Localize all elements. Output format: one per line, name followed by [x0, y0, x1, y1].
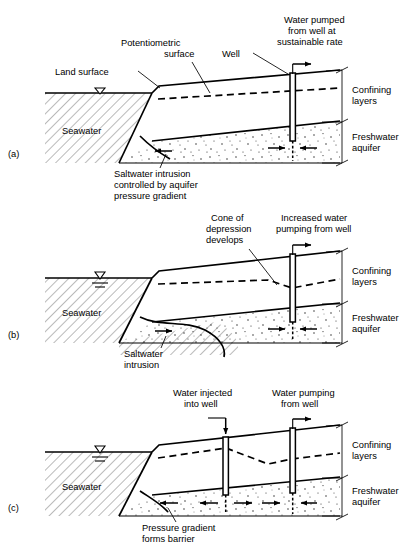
pressure-note-c-l1: Pressure gradient	[142, 523, 216, 533]
intrusion-note-b-l2: intrusion	[124, 360, 159, 370]
aquifer-label-c-l1: Freshwater	[352, 486, 399, 496]
confining-label-a-l2: layers	[352, 96, 377, 106]
potentiometric-label-a-l1: Potentiometric	[121, 38, 181, 48]
aquifer-label-b-l1: Freshwater	[352, 313, 399, 323]
panel-label-a: (a)	[8, 149, 19, 159]
potentiometric-line-b	[158, 279, 340, 288]
potentiometric-label-a-l2: surface	[164, 49, 195, 59]
confining-label-b-l1: Confining	[352, 266, 391, 276]
land-surface-line-c	[152, 425, 340, 452]
intrusion-note-b-l1: Saltwater	[124, 349, 163, 359]
diagram-canvas: (a) Seawater Confining layers Freshwater…	[0, 0, 402, 548]
pumped-label-a-l3: sustainable rate	[277, 37, 343, 47]
confining-label-c-l2: layers	[352, 451, 377, 461]
cone-label-b-l3: develops	[206, 235, 244, 245]
increased-label-b-l2: pumping from well	[276, 224, 351, 234]
intrusion-note-a-l3: pressure gradient	[114, 191, 187, 201]
confining-label-c-l1: Confining	[352, 440, 391, 450]
potentiometric-line-c	[158, 448, 340, 464]
seawater-label-c: Seawater	[62, 482, 101, 492]
intrusion-note-a-l2: controlled by aquifer	[114, 180, 198, 190]
panel-label-b: (b)	[8, 330, 19, 340]
pumping-label-c-l2: from well	[281, 399, 318, 409]
seawater-label-a: Seawater	[62, 126, 101, 136]
confining-label-b-l2: layers	[352, 277, 377, 287]
saltwater-intrusion-figure: (a) Seawater Confining layers Freshwater…	[0, 0, 402, 548]
panel-a: (a) Seawater Confining layers Freshwater…	[8, 15, 399, 201]
well-leader-a	[253, 53, 288, 74]
confining-label-a-l1: Confining	[352, 85, 391, 95]
injected-label-c-l2: into well	[184, 399, 218, 409]
injected-label-c-l1: Water injected	[173, 388, 232, 398]
intrusion-note-a-l1: Saltwater intrusion	[114, 169, 190, 179]
aquifer-stipple-a	[119, 118, 344, 166]
seawater-label-b: Seawater	[62, 308, 101, 318]
pumped-label-a-l1: Water pumped	[284, 15, 345, 25]
cone-label-b-l1: Cone of	[211, 213, 244, 223]
land-surface-leader-a	[138, 71, 160, 88]
aquifer-label-c-l2: aquifer	[352, 497, 380, 507]
cone-label-b-l2: depression	[206, 224, 251, 234]
well-label-a: Well	[222, 49, 240, 59]
aquifer-label-b-l2: aquifer	[352, 324, 380, 334]
land-surface-label-a: Land surface	[55, 67, 109, 77]
potentiometric-line-a	[158, 88, 340, 99]
pressure-note-c-l2: forms barrier	[142, 534, 195, 544]
pumped-label-a-l2: from well at	[288, 26, 336, 36]
panel-b: (b) Seawater Confining layers Freshwater…	[8, 213, 399, 370]
aquifer-label-a-l1: Freshwater	[352, 132, 399, 142]
panel-c: (c) Seawater Confining layers Freshwater…	[8, 388, 399, 544]
land-surface-line-b	[152, 251, 340, 278]
increased-label-b-l1: Increased water	[281, 213, 347, 223]
panel-label-c: (c)	[8, 503, 19, 513]
pumping-label-c-l1: Water pumping	[272, 388, 335, 398]
aquifer-label-a-l2: aquifer	[352, 143, 380, 153]
potentiometric-leader-a	[192, 62, 210, 93]
